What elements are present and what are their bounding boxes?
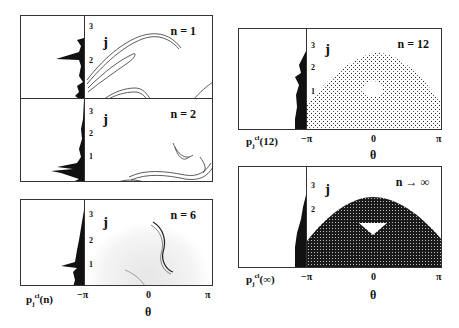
y-tick-3: 3 — [311, 181, 315, 190]
y-tick-2: 2 — [311, 63, 315, 72]
y-tick-3: 3 — [89, 107, 93, 116]
y-axis-label: j — [103, 34, 108, 51]
y-tick-2: 2 — [311, 205, 315, 214]
x-tick-zero: 0 — [146, 289, 151, 300]
hist-axis-label-n12: pjcl(12) — [246, 134, 278, 150]
panel-n2: 3 2 1 j n = 2 — [20, 98, 213, 182]
histogram-n-infinity — [239, 167, 307, 267]
histogram-n1 — [21, 16, 85, 98]
panel-n-infinity: 3 2 j n → ∞ — [238, 166, 442, 268]
n-label: n = 12 — [397, 37, 429, 52]
histogram-shape-n1 — [21, 16, 85, 98]
x-tick-minus-pi: −π — [301, 133, 312, 144]
hist-axis-label-n-infinity: pjcl(∞) — [246, 272, 275, 288]
histogram-n6 — [21, 200, 85, 285]
n-label: n = 2 — [170, 107, 196, 122]
panel-n6: 3 2 1 j n = 6 — [20, 199, 213, 286]
panel-n1: 3 2 j n = 1 — [20, 15, 213, 99]
x-tick-minus-pi: −π — [77, 289, 88, 300]
y-tick-3: 3 — [89, 22, 93, 31]
y-tick-2: 2 — [89, 236, 93, 245]
y-tick-3: 3 — [311, 41, 315, 50]
x-tick-pi: π — [436, 271, 441, 282]
n-label: n = 1 — [170, 24, 196, 39]
x-tick-pi: π — [205, 289, 210, 300]
n-label: n = 6 — [170, 208, 196, 223]
y-axis-label: j — [103, 214, 108, 231]
x-tick-minus-pi: −π — [301, 271, 312, 282]
x-axis-label: θ — [370, 148, 376, 163]
y-tick-2: 2 — [89, 56, 93, 65]
panel-n12: 3 2 1 j n = 12 — [238, 28, 442, 130]
histogram-n12 — [239, 29, 307, 129]
x-tick-pi: π — [436, 133, 441, 144]
x-tick-zero: 0 — [371, 271, 376, 282]
y-axis-label: j — [103, 111, 108, 128]
x-axis-label: θ — [370, 288, 376, 303]
histogram-n2 — [21, 99, 85, 181]
x-tick-zero: 0 — [371, 133, 376, 144]
hist-axis-label-left: pjcl(n) — [26, 292, 53, 308]
y-tick-1: 1 — [89, 152, 93, 161]
y-tick-2: 2 — [89, 129, 93, 138]
y-axis-label: j — [325, 181, 330, 198]
n-label: n → ∞ — [396, 175, 429, 190]
x-axis-label: θ — [145, 305, 151, 320]
y-tick-3: 3 — [89, 210, 93, 219]
y-tick-1: 1 — [311, 87, 315, 96]
y-axis-label: j — [325, 41, 330, 58]
y-tick-1: 1 — [89, 260, 93, 269]
